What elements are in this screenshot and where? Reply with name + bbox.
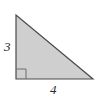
triangle-polygon [16,15,93,79]
label-base-leg: 4 [50,83,57,96]
triangle-figure: 3 4 [0,0,99,101]
label-vertical-leg: 3 [4,40,11,53]
